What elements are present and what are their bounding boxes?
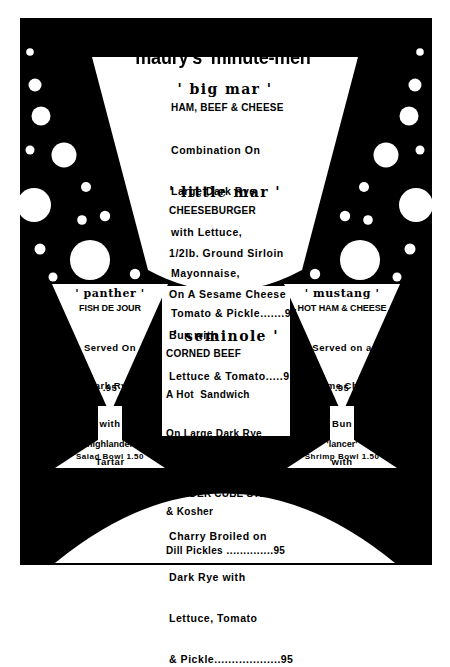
item-subtitle-seminole: CORNED BEEF (166, 349, 296, 359)
item-title-seminole: ' seminole ' (160, 329, 292, 343)
item-desc-redskin: Charry Broiled on Dark Rye with Lettuce,… (169, 503, 369, 667)
item-title-lancer: 'lancer' (290, 440, 394, 449)
desc-line: Dark Rye with (169, 571, 369, 585)
price-leader: .................. (214, 653, 277, 665)
item-desc-panther: Served On Dark Rye with Tartar Sauce (50, 317, 170, 531)
desc-line: with (50, 418, 170, 431)
desc-line: Served On (50, 342, 170, 355)
item-title-highlander: 'highlander' (58, 440, 162, 449)
item-title-little-mar: ' little mar ' (145, 185, 305, 199)
item-subtitle-mustang: HOT HAM & CHEESE (281, 304, 403, 313)
desc-line: On Large Dark Rye (166, 427, 302, 440)
item-subtitle-panther: FISH DE JOUR (50, 304, 170, 313)
desc-line: Served on a (282, 342, 402, 355)
item-detail-lancer: Shrimp Bowl 1.50 (290, 452, 394, 462)
item-subtitle-little-mar: CHEESEBURGER (169, 206, 369, 216)
item-subtitle-redskin: TENDER CUBE STEAK (169, 489, 369, 499)
item-title-big-mar: ' big mar ' (145, 82, 305, 96)
desc-line: Charry Broiled on (169, 530, 369, 544)
item-title-mustang: ' mustang ' (282, 288, 402, 299)
desc-line: A Hot Sandwich (166, 388, 302, 401)
desc-line: 1/2lb. Ground Sirloin (169, 247, 384, 261)
item-title-redskin: ' redskin ' (155, 468, 315, 482)
desc-line: Lettuce, Tomato (169, 612, 369, 626)
desc-line: & Pickle (169, 653, 214, 665)
desc-line: Combination On (171, 144, 381, 158)
item-subtitle-big-mar: HAM, BEEF & CHEESE (171, 103, 371, 113)
page-title: maury's 'minute-men' (122, 46, 328, 67)
item-title-panther: ' panther ' (50, 288, 170, 299)
item-detail-highlander: Salad Bowl 1.50 (58, 452, 162, 462)
item-price-panther: .95 (50, 382, 170, 395)
desc-line: Sauce (50, 493, 170, 506)
item-price-redskin: .95 (278, 653, 294, 665)
desc-line-with-price: & Pickle...................95 (169, 653, 369, 667)
